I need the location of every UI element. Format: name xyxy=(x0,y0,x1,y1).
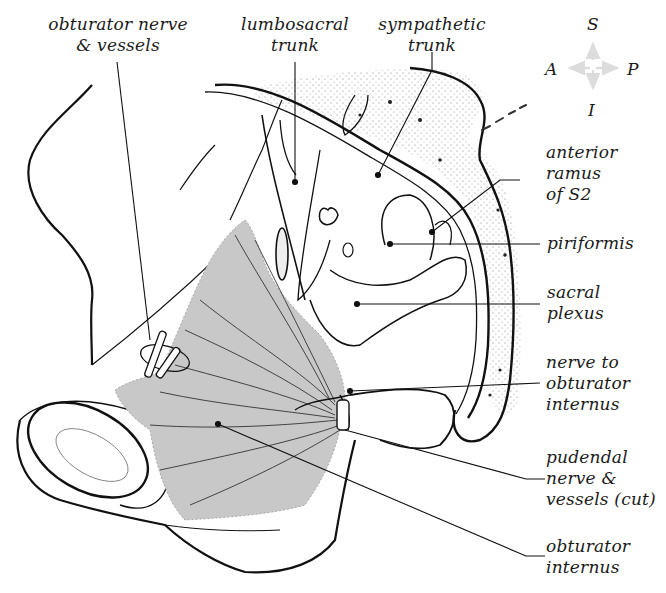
label-pudendal-nerve-vessels: pudendal nerve & vessels (cut) xyxy=(546,447,656,510)
compass-inferior: I xyxy=(588,100,595,120)
label-nerve-to-obturator-internus: nerve to obturator internus xyxy=(546,352,630,415)
compass-superior: S xyxy=(587,14,599,34)
compass-posterior: P xyxy=(627,59,638,79)
label-anterior-ramus-s2: anterior ramus of S2 xyxy=(546,142,618,205)
compass-arrows xyxy=(570,44,617,88)
label-sacral-plexus: sacral plexus xyxy=(547,282,604,324)
label-piriformis: piriformis xyxy=(547,233,634,254)
label-obturator-internus: obturator internus xyxy=(546,536,630,578)
label-sympathetic-trunk: sympathetic trunk xyxy=(372,14,492,56)
label-obturator-nerve-vessels: obturator nerve & vessels xyxy=(38,14,198,56)
label-lumbosacral-trunk: lumbosacral trunk xyxy=(240,14,350,56)
anatomy-diagram: S A P I obturator nerve & vessels lumbos… xyxy=(0,0,666,593)
compass-anterior: A xyxy=(545,59,557,79)
